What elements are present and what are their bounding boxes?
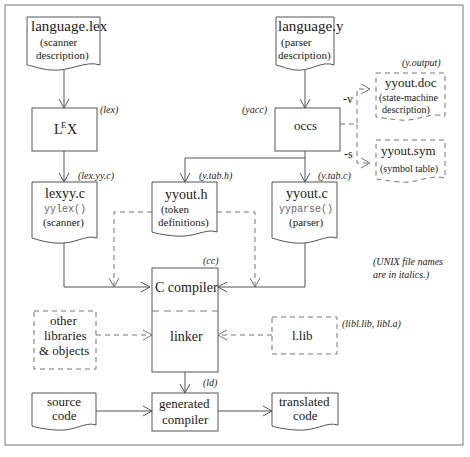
node-desc: other bbox=[50, 313, 77, 328]
linker-label: linker bbox=[170, 329, 203, 344]
note-line: are in italics.) bbox=[373, 269, 430, 281]
node-code: yylex() bbox=[44, 204, 86, 215]
node-language-lex: language.lex (scanner description) bbox=[27, 17, 108, 70]
unix-filename: (ld) bbox=[203, 377, 218, 389]
node-desc: libraries bbox=[44, 328, 87, 343]
flag-s-label: -s bbox=[344, 147, 353, 161]
node-yyout-c: yyout.c yyparse() (parser) (y.tab.c) bbox=[272, 170, 351, 243]
node-desc: description) bbox=[36, 49, 89, 62]
node-title: yyout.sym bbox=[381, 143, 436, 158]
node-title: lexyy.c bbox=[45, 186, 85, 201]
node-code: yyparse() bbox=[279, 204, 333, 215]
node-desc: (symbol table) bbox=[380, 163, 438, 175]
unix-filename: (y.output) bbox=[402, 57, 441, 69]
node-desc: definitions) bbox=[158, 216, 209, 229]
node-l-lib: l.lib (libl.lib, libl.a) bbox=[272, 317, 402, 354]
note-line: (UNIX file names bbox=[373, 256, 443, 268]
node-title: language.lex bbox=[31, 18, 108, 34]
unix-filename: (y.tab.h) bbox=[199, 170, 233, 182]
node-desc: description) bbox=[278, 49, 331, 62]
unix-filename: (y.tab.c) bbox=[318, 170, 351, 182]
flag-v-label: -v bbox=[343, 92, 353, 106]
c-compiler-label: C compiler bbox=[155, 280, 218, 295]
unix-filename: (lex) bbox=[100, 104, 119, 116]
node-source-code: source code bbox=[32, 393, 96, 430]
legend-note: (UNIX file names are in italics.) bbox=[373, 256, 443, 281]
node-desc: code bbox=[293, 408, 318, 423]
node-yyout-sym: yyout.sym (symbol table) bbox=[376, 140, 445, 182]
node-title: l.lib bbox=[292, 328, 313, 343]
node-lexyy-c: lexyy.c yylex() (scanner) (lex.yy.c) bbox=[32, 170, 115, 243]
node-c-compiler-linker: C compiler (cc) linker (ld) bbox=[152, 255, 219, 389]
node-title: occs bbox=[294, 118, 317, 133]
node-language-y: language.y (parser description) bbox=[276, 17, 344, 70]
node-title: language.y bbox=[278, 18, 344, 34]
node-desc: generated bbox=[159, 396, 210, 411]
node-desc: (scanner bbox=[40, 36, 78, 49]
unix-filename: (cc) bbox=[203, 255, 219, 267]
unix-filename: (yacc) bbox=[242, 104, 268, 116]
node-yyout-h: yyout.h (token definitions) (y.tab.h) bbox=[152, 170, 233, 236]
node-desc: compiler bbox=[162, 412, 209, 427]
node-desc: & objects bbox=[39, 343, 89, 358]
node-title: yyout.h bbox=[165, 187, 207, 202]
node-desc: (scanner) bbox=[43, 216, 84, 229]
node-desc: source bbox=[47, 394, 81, 409]
lex-letter: X bbox=[67, 122, 77, 137]
node-desc: (token bbox=[161, 203, 190, 216]
node-desc: code bbox=[52, 408, 77, 423]
node-yyout-doc: yyout.doc (state-machine description) (y… bbox=[376, 57, 445, 120]
unix-filename: (lex.yy.c) bbox=[78, 170, 115, 182]
node-desc: (parser bbox=[281, 36, 312, 49]
node-desc: (parser) bbox=[289, 216, 324, 229]
node-desc: translated bbox=[279, 394, 330, 409]
compiler-pipeline-diagram: language.lex (scanner description) L E X… bbox=[0, 0, 470, 457]
node-title: yyout.doc bbox=[385, 75, 437, 90]
node-occs: occs (yacc) bbox=[242, 104, 340, 151]
node-lex: L E X (lex) bbox=[32, 104, 119, 151]
node-desc: description) bbox=[382, 104, 430, 116]
node-translated-code: translated code bbox=[272, 393, 338, 430]
unix-filename: (libl.lib, libl.a) bbox=[342, 318, 402, 330]
node-title: yyout.c bbox=[286, 186, 328, 201]
node-generated-compiler: generated compiler bbox=[152, 393, 218, 431]
node-desc: (state-machine bbox=[379, 92, 438, 104]
node-other-libraries: other libraries & objects bbox=[34, 311, 96, 369]
